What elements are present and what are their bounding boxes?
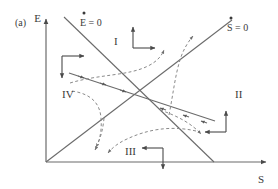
phase-portrait-figure: (a) E S E = 0 S = 0 I II III IV [0, 0, 278, 189]
separatrix-group [69, 73, 215, 123]
axes-group [46, 19, 266, 162]
nullcline-label-s-text: S = 0 [227, 22, 248, 33]
nullcline-label-e-dot-zero: E = 0 [80, 12, 102, 29]
quadrant-label-1: I [114, 35, 118, 47]
nullclines-group [46, 17, 232, 162]
overdot-s-icon [230, 17, 233, 20]
quadrant-label-2: II [235, 88, 243, 100]
direction-arrows-quadrant-1 [133, 27, 155, 48]
panel-label: (a) [15, 17, 26, 29]
quadrant-label-4: IV [62, 88, 74, 100]
y-axis-label: E [34, 12, 41, 24]
direction-arrows-quadrant-3 [142, 148, 163, 169]
separatrix-arrow-1 [78, 76, 84, 78]
separatrix-arrow-4 [160, 108, 166, 110]
phase-portrait-canvas: (a) E S E = 0 S = 0 I II III IV [0, 0, 278, 189]
overdot-e-icon [83, 12, 86, 15]
trajectory-traj-lower-right [95, 118, 104, 150]
direction-arrows-quadrant-2 [205, 111, 226, 132]
nullcline-label-s-dot-zero: S = 0 [227, 17, 248, 34]
separatrix-stable-manifold [69, 73, 215, 121]
separatrix-arrow-5 [183, 115, 189, 117]
x-axis-label: S [258, 173, 264, 185]
nullcline-label-e-text: E = 0 [80, 17, 102, 28]
quadrant-label-3: III [125, 145, 136, 157]
separatrix-arrow-6 [201, 121, 207, 123]
nullcline-e-dot-zero [64, 17, 214, 162]
trajectory-traj-upper-right [169, 36, 193, 115]
